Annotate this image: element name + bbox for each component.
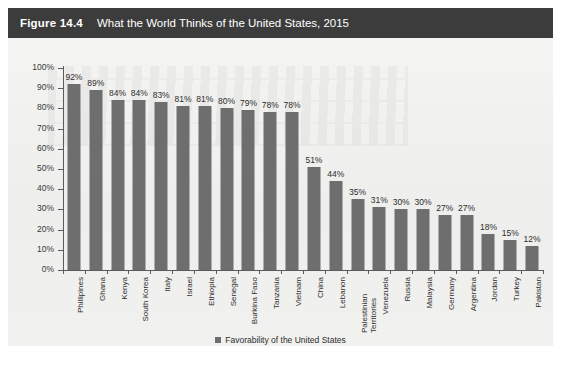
x-axis-category-label: Malaysia [426,277,435,309]
bar-value-label: 80% [218,96,235,106]
x-axis-category-label: Israel [186,277,195,297]
bar-group[interactable]: 84% [107,68,129,270]
bar[interactable] [133,100,146,270]
bar-group[interactable]: 81% [172,68,194,270]
x-axis-category-label: Venezuela [382,277,391,314]
bar[interactable] [504,240,517,270]
x-axis-tick-mark [63,270,64,274]
bar-group[interactable]: 27% [434,68,456,270]
bar[interactable] [220,108,233,270]
legend-swatch [215,337,221,343]
bar-group[interactable]: 80% [216,68,238,270]
bar[interactable] [351,199,364,270]
bar[interactable] [242,110,255,270]
bar-group[interactable]: 44% [325,68,347,270]
x-axis-category-label: Phillipines [77,277,86,313]
bar-value-label: 27% [436,203,453,213]
bar-group[interactable]: 27% [456,68,478,270]
figure-number: Figure 14.4 [20,17,83,29]
x-axis-category-label: Germany [448,277,457,310]
bar-value-label: 84% [131,88,148,98]
bar-group[interactable]: 83% [150,68,172,270]
x-axis-tick-mark [368,270,369,274]
bar-group[interactable]: 18% [478,68,500,270]
y-axis-tick-label: 40% [37,183,54,193]
bar-group[interactable]: 78% [259,68,281,270]
bar-value-label: 81% [196,94,213,104]
x-axis-category-label: Kenya [121,277,130,300]
x-axis-tick-mark [194,270,195,274]
bar[interactable] [416,209,429,270]
x-axis-tick-mark [434,270,435,274]
bar-value-label: 89% [87,78,104,88]
x-axis-category-label: Palestinian Territories [361,277,378,333]
bar[interactable] [111,100,124,270]
bar-group[interactable]: 30% [390,68,412,270]
bar[interactable] [438,215,451,270]
bar-group[interactable]: 89% [85,68,107,270]
bar-value-label: 27% [458,203,475,213]
chart-legend: Favorability of the United States [8,335,553,345]
bar-group[interactable]: 81% [194,68,216,270]
bar-group[interactable]: 84% [128,68,150,270]
bar[interactable] [264,112,277,270]
y-axis-tick-label: 80% [37,102,54,112]
bar-group[interactable]: 35% [347,68,369,270]
x-axis-tick-mark [390,270,391,274]
bar[interactable] [526,246,539,270]
x-axis-category-label: Ghana [99,277,108,301]
bar-value-label: 30% [393,197,410,207]
bar-value-label: 78% [284,100,301,110]
bar-value-label: 15% [502,228,519,238]
y-axis-tick-label: 20% [37,224,54,234]
x-axis-tick-mark [128,270,129,274]
bar[interactable] [307,167,320,270]
bar[interactable] [482,234,495,270]
bar-value-label: 79% [240,98,257,108]
bar[interactable] [155,102,168,270]
bar[interactable] [67,84,80,270]
bar[interactable] [329,181,342,270]
bar-group[interactable]: 30% [412,68,434,270]
bar-value-label: 51% [305,155,322,165]
bar-group[interactable]: 15% [499,68,521,270]
x-axis-tick-mark [107,270,108,274]
x-axis-category-label: Turkey [513,277,522,301]
x-axis-tick-mark [216,270,217,274]
bar[interactable] [286,112,299,270]
bar-value-label: 12% [524,234,541,244]
x-axis-tick-mark [172,270,173,274]
bar[interactable] [395,209,408,270]
x-axis-category-label: China [317,277,326,298]
x-axis-category-label: Italy [164,277,173,292]
bar-group[interactable]: 31% [368,68,390,270]
y-axis-tick-label: 30% [37,203,54,213]
bar-group[interactable]: 78% [281,68,303,270]
bar-value-label: 35% [349,187,366,197]
bar[interactable] [89,90,102,270]
plot-area: 92%89%84%84%83%81%81%80%79%78%78%51%44%3… [63,68,543,270]
x-axis-tick-mark [238,270,239,274]
y-axis-tick-label: 100% [32,62,54,72]
x-axis-category-label: Vietnam [295,277,304,306]
bar-group[interactable]: 12% [521,68,543,270]
bar-group[interactable]: 92% [63,68,85,270]
x-axis-category-label: Burkina Faso [251,277,260,324]
bar-value-label: 81% [174,94,191,104]
bar[interactable] [198,106,211,270]
bar[interactable] [460,215,473,270]
y-axis-tick-label: 10% [37,244,54,254]
bar-group[interactable]: 51% [303,68,325,270]
bar[interactable] [176,106,189,270]
x-axis-category-label: Lebanon [339,277,348,308]
figure-header: Figure 14.4 What the World Thinks of the… [8,8,553,38]
bar[interactable] [373,207,386,270]
bar-value-label: 83% [153,90,170,100]
y-axis-tick-label: 50% [37,163,54,173]
x-axis-tick-mark [259,270,260,274]
x-axis-category-label: Ethiopia [208,277,217,306]
x-axis-tick-mark [543,270,544,274]
bar-value-label: 30% [414,197,431,207]
y-axis-tick-label: 90% [37,82,54,92]
bar-group[interactable]: 79% [238,68,260,270]
